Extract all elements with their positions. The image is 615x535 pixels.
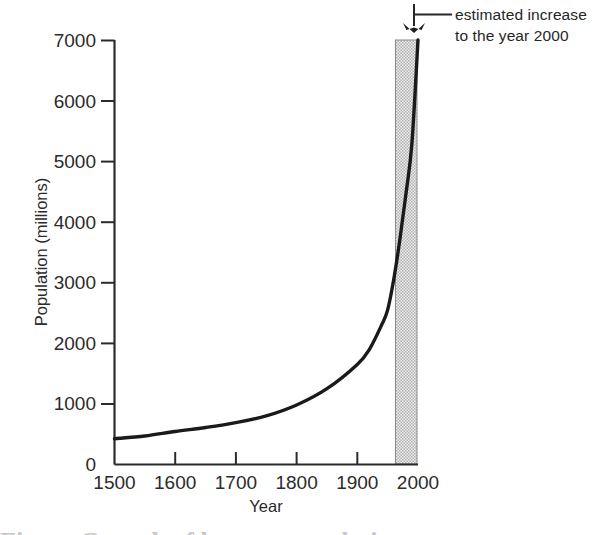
annotation-line-2: to the year 2000 — [455, 25, 569, 46]
x-axis-title: Year — [249, 497, 283, 515]
chart-axes — [115, 40, 419, 465]
y-tick-6000: 6000 — [54, 91, 96, 112]
population-chart: 7000 6000 5000 4000 3000 2000 1000 0 150… — [0, 0, 615, 535]
y-tick-5000: 5000 — [54, 151, 96, 172]
x-tick-1700: 1700 — [215, 472, 257, 493]
x-axis-tick-labels: 1500 1600 1700 1800 1900 2000 — [93, 472, 439, 493]
y-axis-title: Population (millions) — [32, 178, 50, 327]
x-tick-1600: 1600 — [154, 472, 196, 493]
estimated-increase-pointer — [403, 4, 452, 33]
x-tick-1500: 1500 — [93, 472, 135, 493]
population-growth-figure: 7000 6000 5000 4000 3000 2000 1000 0 150… — [0, 0, 615, 535]
annotation-line-1: estimated increase — [455, 4, 587, 25]
x-tick-1900: 1900 — [336, 472, 378, 493]
y-tick-7000: 7000 — [54, 30, 96, 51]
y-tick-3000: 3000 — [54, 272, 96, 293]
y-axis-ticks — [101, 41, 115, 405]
y-tick-1000: 1000 — [54, 393, 96, 414]
population-curve-line — [115, 40, 419, 439]
x-tick-1800: 1800 — [275, 472, 317, 493]
y-tick-2000: 2000 — [54, 333, 96, 354]
y-tick-4000: 4000 — [54, 212, 96, 233]
y-axis-tick-labels: 7000 6000 5000 4000 3000 2000 1000 0 — [54, 30, 96, 475]
x-tick-2000: 2000 — [397, 472, 439, 493]
x-axis-ticks — [175, 452, 357, 465]
figure-caption-sliver: Figure Growth of human population — [0, 527, 615, 535]
